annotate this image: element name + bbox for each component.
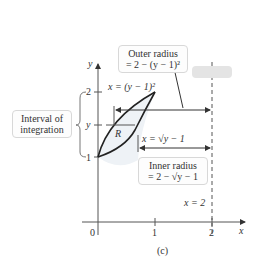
y-tick-y: y	[86, 119, 90, 130]
interval-box: Interval of integration	[12, 110, 72, 138]
region-label: R	[115, 128, 121, 139]
x-tick-0: 0	[90, 227, 95, 238]
x-equals-2-label: x = 2	[184, 197, 205, 208]
inner-radius-box: Inner radius = 2 − √y − 1	[138, 157, 208, 185]
outer-radius-title: Outer radius	[122, 48, 184, 59]
x-axis-label: x	[239, 225, 243, 236]
figure-caption: (c)	[157, 245, 168, 256]
y-tick-1: 1	[86, 152, 91, 163]
lower-curve-label: x = √y − 1	[142, 133, 185, 144]
y-tick-2: 2	[86, 86, 91, 97]
upper-curve-label: x = (y − 1)²	[108, 81, 155, 92]
outer-radius-formula: = 2 − (y − 1)²	[122, 59, 184, 70]
y-axis-label: y	[88, 58, 92, 69]
x-tick-2: 2	[209, 227, 214, 238]
interval-line2: integration	[16, 124, 68, 135]
interval-line1: Interval of	[16, 113, 68, 124]
interval-brace	[76, 92, 86, 157]
outer-radius-box: Outer radius = 2 − (y − 1)²	[118, 45, 188, 73]
x-tick-1: 1	[152, 227, 157, 238]
inner-radius-formula: = 2 − √y − 1	[142, 171, 204, 182]
inner-radius-title: Inner radius	[142, 160, 204, 171]
